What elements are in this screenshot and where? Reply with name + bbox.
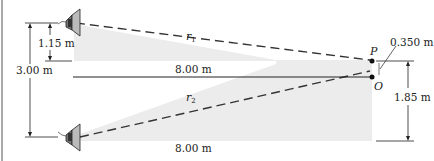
label-r2: r2: [186, 91, 196, 105]
dim-115-arrow-down: [48, 56, 52, 61]
lower-shaded-region: [80, 64, 276, 141]
label-P: P: [369, 45, 378, 58]
label-115m: 1.15 m: [38, 37, 75, 49]
offset-leader: [380, 46, 396, 69]
lower-speaker-icon: [58, 124, 80, 151]
label-185m: 1.85 m: [394, 91, 431, 103]
point-P: [370, 59, 375, 64]
dim-3m-arrow-up: [28, 23, 32, 28]
label-0350m: 0.350 m: [390, 36, 433, 48]
label-8m-bottom: 8.00 m: [175, 142, 212, 154]
label-r1: r1: [186, 30, 196, 44]
right-shaded-strip: [276, 60, 372, 141]
dim-185-arrow-up: [406, 61, 410, 66]
dim-185-arrow-down: [406, 136, 410, 141]
dim-3m-arrow-down: [28, 132, 32, 137]
dim-115-arrow-up: [48, 23, 52, 28]
label-3m: 3.00 m: [16, 64, 53, 76]
upper-speaker-icon: [58, 9, 80, 36]
point-O: [370, 75, 375, 80]
two-speaker-interference-diagram: 3.00 m 1.15 m 8.00 m 8.00 m r1 r2 P O 0.…: [0, 0, 434, 161]
label-O: O: [374, 80, 383, 93]
label-8m-top: 8.00 m: [175, 63, 212, 75]
upper-shaded-region: [74, 24, 276, 61]
